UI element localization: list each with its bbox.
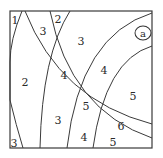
corner-label-a: a [135,26,152,41]
corner-label-text: a [140,28,146,39]
region-label: 6 [118,121,125,132]
region-label: 4 [61,70,68,81]
region-label: 5 [110,137,117,148]
region-label: 4 [81,132,88,143]
region-label: 3 [78,36,85,47]
region-label: 3 [40,26,47,37]
region-label: 3 [55,115,62,126]
region-label: 4 [101,65,108,76]
region-label: 2 [22,77,29,88]
region-label: 5 [130,91,137,102]
region-diagram: a 1 3 2 3 2 4 4 5 5 3 6 4 5 3 [0,0,163,158]
region-label: 1 [12,15,19,26]
region-label: 2 [55,14,62,25]
square-frame [10,11,152,148]
region-label: 3 [11,138,18,149]
curve-small-arc [93,46,152,148]
region-label: 5 [83,101,90,112]
